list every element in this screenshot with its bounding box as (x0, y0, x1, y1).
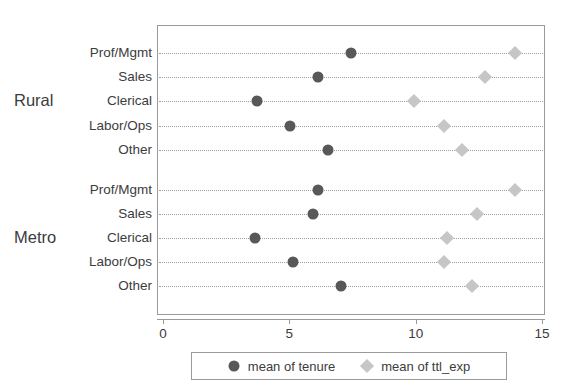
diamond-marker-icon (360, 359, 374, 373)
gridline (159, 238, 543, 239)
legend-swatch (361, 360, 373, 372)
y-axis-group-label: Metro (14, 227, 56, 246)
x-axis-tick (416, 319, 417, 324)
diamond-marker-icon (478, 70, 492, 84)
circle-marker-icon (287, 257, 298, 268)
circle-marker-icon (308, 208, 319, 219)
x-axis: 051015 (157, 319, 545, 320)
x-axis-tick-label: 0 (159, 326, 167, 341)
diamond-marker-icon (508, 46, 522, 60)
x-axis-tick (163, 319, 164, 324)
legend-swatch (228, 360, 240, 372)
y-axis-category-label: Sales (118, 69, 152, 84)
legend-item: mean of tenure (228, 359, 335, 374)
plot-area (157, 25, 545, 315)
y-axis-category-label: Other (118, 278, 152, 293)
x-axis-tick-label: 5 (286, 326, 294, 341)
diamond-marker-icon (465, 279, 479, 293)
x-axis-tick-label: 15 (534, 326, 549, 341)
diamond-marker-icon (437, 255, 451, 269)
circle-marker-icon (252, 96, 263, 107)
y-axis-category-label: Other (118, 141, 152, 156)
y-axis-category-label: Clerical (107, 93, 152, 108)
circle-marker-icon (345, 48, 356, 59)
legend-item: mean of ttl_exp (361, 359, 470, 374)
dot-plot-chart: Prof/MgmtSalesClericalLabor/OpsOtherRura… (0, 0, 573, 390)
gridline (159, 262, 543, 263)
circle-marker-icon (313, 72, 324, 83)
gridline (159, 150, 543, 151)
diamond-marker-icon (508, 182, 522, 196)
legend-label: mean of ttl_exp (381, 359, 470, 374)
x-axis-tick-label: 10 (408, 326, 423, 341)
circle-marker-icon (313, 184, 324, 195)
y-axis-category-label: Prof/Mgmt (90, 181, 152, 196)
circle-marker-icon (249, 232, 260, 243)
y-axis-labels: Prof/MgmtSalesClericalLabor/OpsOtherRura… (0, 0, 152, 290)
diamond-marker-icon (455, 143, 469, 157)
x-axis-tick (542, 319, 543, 324)
circle-marker-icon (335, 281, 346, 292)
diamond-marker-icon (437, 119, 451, 133)
gridline (159, 286, 543, 287)
diamond-marker-icon (470, 207, 484, 221)
chart-legend: mean of tenuremean of ttl_exp (191, 352, 507, 380)
diamond-marker-icon (407, 94, 421, 108)
gridline (159, 190, 543, 191)
gridline (159, 214, 543, 215)
y-axis-category-label: Clerical (107, 229, 152, 244)
y-axis-group-label: Rural (14, 91, 53, 110)
diamond-marker-icon (440, 231, 454, 245)
circle-marker-icon (285, 120, 296, 131)
x-axis-tick (289, 319, 290, 324)
y-axis-category-label: Prof/Mgmt (90, 45, 152, 60)
y-axis-category-label: Labor/Ops (89, 117, 152, 132)
gridline (159, 101, 543, 102)
legend-label: mean of tenure (248, 359, 335, 374)
circle-marker-icon (323, 144, 334, 155)
gridline (159, 126, 543, 127)
y-axis-category-label: Labor/Ops (89, 254, 152, 269)
circle-marker-icon (228, 361, 239, 372)
y-axis-category-label: Sales (118, 205, 152, 220)
